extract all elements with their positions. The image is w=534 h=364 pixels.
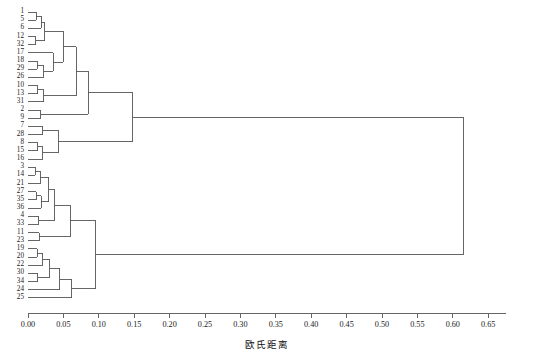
- x-tick-label-6: 0.30: [220, 321, 260, 329]
- leaf-label-14: 14: [0, 171, 24, 178]
- leaf-label-17: 17: [0, 49, 24, 56]
- x-tick-label-3: 0.15: [114, 321, 154, 329]
- leaf-label-4: 4: [0, 212, 24, 219]
- leaf-label-2: 2: [0, 106, 24, 113]
- leaf-label-1: 1: [0, 8, 24, 15]
- leaf-label-7: 7: [0, 122, 24, 129]
- x-tick-label-13: 0.65: [468, 321, 508, 329]
- leaf-label-19: 19: [0, 245, 24, 252]
- leaf-label-22: 22: [0, 261, 24, 268]
- x-tick-label-5: 0.25: [185, 321, 225, 329]
- x-axis-title: 欧氏距离: [197, 340, 337, 350]
- leaf-label-20: 20: [0, 253, 24, 260]
- x-tick-label-8: 0.40: [291, 321, 331, 329]
- x-tick-label-10: 0.50: [362, 321, 402, 329]
- leaf-label-18: 18: [0, 57, 24, 64]
- leaf-label-31: 31: [0, 98, 24, 105]
- leaf-label-23: 23: [0, 237, 24, 244]
- leaf-label-8: 8: [0, 139, 24, 146]
- leaf-label-24: 24: [0, 286, 24, 293]
- x-tick-label-9: 0.45: [327, 321, 367, 329]
- x-tick-label-7: 0.35: [256, 321, 296, 329]
- leaf-label-12: 12: [0, 33, 24, 40]
- leaf-label-16: 16: [0, 155, 24, 162]
- leaf-label-33: 33: [0, 220, 24, 227]
- leaf-label-3: 3: [0, 163, 24, 170]
- leaf-label-21: 21: [0, 180, 24, 187]
- leaf-label-27: 27: [0, 188, 24, 195]
- leaf-label-32: 32: [0, 41, 24, 48]
- leaf-label-29: 29: [0, 65, 24, 72]
- leaf-label-11: 11: [0, 229, 24, 236]
- dendrogram-figure: 1561232171829261013312972881516314212735…: [0, 0, 534, 364]
- leaf-label-25: 25: [0, 294, 24, 301]
- leaf-label-10: 10: [0, 82, 24, 89]
- leaf-label-35: 35: [0, 196, 24, 203]
- leaf-label-13: 13: [0, 90, 24, 97]
- dendrogram-plot: [0, 0, 534, 364]
- x-tick-label-1: 0.05: [43, 321, 83, 329]
- x-tick-label-11: 0.55: [397, 321, 437, 329]
- leaf-label-5: 5: [0, 16, 24, 23]
- leaf-label-34: 34: [0, 278, 24, 285]
- x-tick-label-4: 0.20: [150, 321, 190, 329]
- leaf-label-26: 26: [0, 73, 24, 80]
- x-tick-label-2: 0.10: [79, 321, 119, 329]
- leaf-label-28: 28: [0, 131, 24, 138]
- leaf-label-6: 6: [0, 24, 24, 31]
- leaf-label-9: 9: [0, 114, 24, 121]
- leaf-label-36: 36: [0, 204, 24, 211]
- x-tick-label-12: 0.60: [433, 321, 473, 329]
- leaf-label-30: 30: [0, 269, 24, 276]
- leaf-label-15: 15: [0, 147, 24, 154]
- x-tick-label-0: 0.00: [8, 321, 48, 329]
